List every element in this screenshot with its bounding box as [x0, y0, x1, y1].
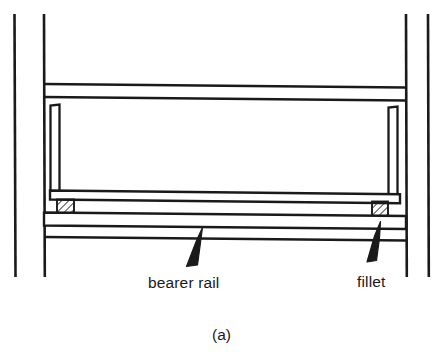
- figure-caption: (a): [212, 326, 231, 343]
- fillet-label: fillet: [357, 273, 386, 290]
- frame-post-right: [406, 14, 407, 277]
- outer-post-right: [428, 14, 429, 277]
- bearer-rail-cross-section-diagram: bearer rail fillet (a): [0, 0, 446, 363]
- figure-background: [0, 0, 446, 363]
- figure-container: bearer rail fillet (a): [0, 0, 446, 363]
- bearer-rail-label: bearer rail: [148, 274, 219, 291]
- outer-post-left: [15, 14, 16, 277]
